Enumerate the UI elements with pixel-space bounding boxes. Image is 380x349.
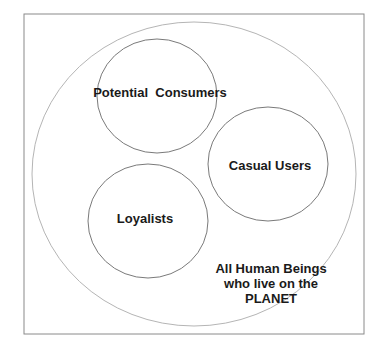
potential-consumers-label: Potential Consumers: [93, 85, 227, 100]
loyalists-label: Loyalists: [117, 211, 173, 226]
casual-users-label: Casual Users: [229, 158, 311, 173]
planet-label-line-3: PLANET: [215, 291, 326, 306]
planet-label-line-1: All Human Beings: [215, 261, 326, 276]
planet-label: All Human Beings who live on the PLANET: [215, 261, 326, 306]
planet-label-line-2: who live on the: [215, 276, 326, 291]
